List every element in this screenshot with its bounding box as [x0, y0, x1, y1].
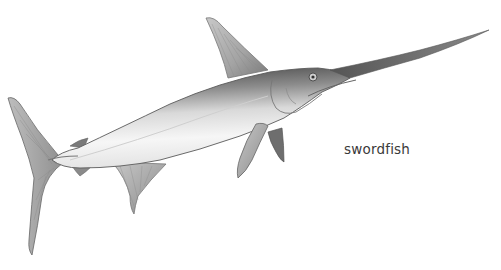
- swordfish-drawing: [0, 0, 501, 270]
- fish-body: [48, 68, 350, 168]
- anal-fin: [112, 162, 166, 214]
- sword-bill: [330, 30, 489, 78]
- tail-fin: [8, 98, 64, 255]
- pelvic-fin: [268, 128, 284, 162]
- dorsal-fin: [206, 18, 268, 78]
- species-label: swordfish: [344, 141, 410, 157]
- swordfish-illustration: [0, 0, 501, 270]
